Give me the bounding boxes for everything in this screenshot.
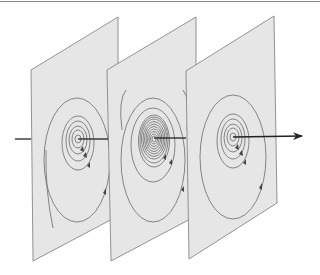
plane-3-sheet — [186, 16, 277, 259]
plane-2 — [107, 17, 196, 261]
plane-3 — [186, 16, 302, 259]
plane-1 — [31, 17, 118, 261]
field-planes-diagram — [0, 0, 320, 275]
plane-2-sheet — [107, 17, 196, 261]
